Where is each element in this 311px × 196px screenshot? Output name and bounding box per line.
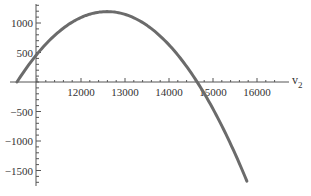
chart-container: 1000500−500−1000−1500 120001300014000150…	[0, 0, 311, 196]
x-axis-title-subscript: 2	[298, 80, 303, 90]
x-axis: 1200013000140001500016000	[10, 78, 289, 98]
y-tick-label: −1500	[5, 165, 34, 177]
y-tick-label: 1000	[11, 17, 34, 29]
y-tick-label: 500	[17, 47, 34, 59]
y-tick-label: −500	[10, 106, 33, 118]
x-axis-title: v2	[292, 73, 303, 90]
y-tick-label: −1000	[5, 135, 34, 147]
y-axis: 1000500−500−1000−1500	[5, 4, 41, 186]
x-tick-label: 13000	[111, 86, 139, 98]
x-tick-label: 16000	[243, 86, 271, 98]
x-tick-label: 12000	[67, 86, 95, 98]
x-tick-label: 14000	[155, 86, 183, 98]
chart-svg: 1000500−500−1000−1500 120001300014000150…	[0, 0, 311, 196]
